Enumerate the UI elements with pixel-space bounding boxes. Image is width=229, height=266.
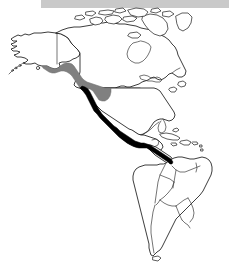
victoria-island — [105, 15, 122, 24]
lesser-antilles-2 — [201, 149, 203, 151]
melville-island — [99, 10, 114, 15]
hispaniola — [180, 140, 191, 145]
arctic-islet-4 — [163, 11, 174, 17]
aleutian-island-2 — [15, 67, 17, 69]
arctic-islet-3 — [151, 8, 161, 13]
devon-island — [123, 16, 137, 22]
florida-peninsula — [158, 119, 166, 133]
caribbean-islands — [160, 128, 203, 151]
prince-patrick-island — [86, 11, 96, 16]
border-argentina-uruguay — [182, 220, 190, 228]
kodiak-island — [36, 66, 39, 69]
range-map-figure — [0, 0, 229, 266]
aleutian-island-3 — [12, 70, 14, 72]
greenland-west-edge — [176, 13, 192, 31]
arctic-islet-2 — [75, 15, 85, 20]
tierra-del-fuego — [153, 256, 161, 261]
aleutian-island-1 — [19, 65, 21, 67]
arctic-islet-1 — [115, 8, 126, 13]
landmass-south-america — [133, 157, 212, 261]
cuba — [160, 133, 180, 140]
lesser-antilles-1 — [200, 145, 202, 147]
bahamas — [173, 128, 179, 132]
south-america-coastline — [133, 157, 212, 256]
jamaica — [171, 143, 177, 146]
puerto-rico — [192, 142, 198, 145]
ellesmere-island — [128, 8, 148, 17]
nova-scotia — [169, 87, 177, 92]
newfoundland — [178, 81, 186, 87]
americas-map — [0, 0, 229, 266]
